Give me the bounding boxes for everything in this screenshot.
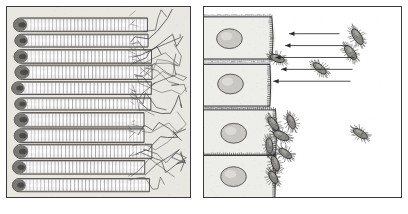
panel-right — [203, 6, 402, 198]
villus — [12, 160, 145, 174]
villus — [13, 18, 148, 32]
villus — [14, 98, 151, 110]
villus — [14, 129, 144, 143]
columnar-epithelial-cell — [204, 152, 278, 197]
panel-left — [6, 6, 191, 198]
villus — [14, 34, 148, 47]
villus — [12, 179, 150, 192]
panel-right-drawing — [204, 7, 401, 197]
columnar-epithelial-cell — [204, 61, 273, 109]
villi-group — [11, 18, 152, 192]
panel-left-drawing — [7, 7, 190, 197]
villus — [14, 113, 144, 127]
columnar-epithelial-cell — [204, 14, 275, 62]
figure-container: Bacterial colonization of intestinal epi… — [0, 0, 408, 214]
villus — [11, 82, 151, 95]
villus — [13, 144, 152, 158]
villus — [14, 65, 152, 79]
